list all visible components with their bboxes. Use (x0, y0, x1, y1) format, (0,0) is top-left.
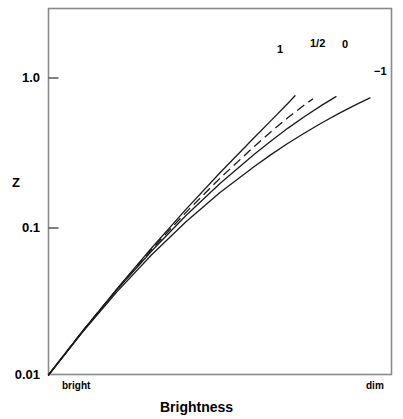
plot-frame (49, 9, 392, 375)
y-axis-title: Z (12, 176, 20, 189)
curve-label-minus-one: −1 (374, 66, 387, 77)
x-axis-title: Brightness (160, 400, 233, 414)
chart-figure: 1.0 0.1 0.01 Z bright dim Brightness 1 1… (0, 0, 403, 419)
curve-label-1: 1 (277, 44, 283, 55)
curve-label-half: 1/2 (310, 38, 325, 49)
y-tick-label-2: 0.1 (12, 221, 40, 234)
curve-label-zero: 0 (342, 39, 348, 50)
x-axis-left-label: bright (62, 381, 90, 391)
plot-area (0, 0, 403, 419)
x-axis-right-label: dim (366, 381, 384, 391)
y-tick-label-1: 1.0 (12, 71, 40, 84)
y-tick-label-3: 0.01 (3, 368, 40, 381)
